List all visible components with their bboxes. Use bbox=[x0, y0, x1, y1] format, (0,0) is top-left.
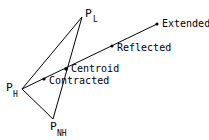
centroid-label: Centroid bbox=[71, 63, 119, 74]
reflected-label: Reflected bbox=[117, 42, 171, 53]
edge-pnh-ph bbox=[22, 89, 53, 119]
ph-label: P bbox=[6, 81, 13, 94]
reflected-marker bbox=[110, 44, 113, 47]
vertex-label-pl: P L bbox=[85, 7, 98, 24]
extended-label: Extended bbox=[162, 18, 209, 29]
extended-marker bbox=[155, 22, 158, 25]
vertex-label-pnh: P NH bbox=[50, 120, 67, 138]
vertex-label-ph: P H bbox=[6, 81, 18, 99]
contracted-marker bbox=[42, 77, 45, 80]
ph-subscript: H bbox=[13, 90, 18, 99]
pnh-subscript: NH bbox=[57, 129, 67, 138]
contracted-label: Contracted bbox=[49, 75, 109, 86]
pnh-label: P bbox=[50, 120, 57, 133]
simplex-diagram: P L P H P NH Contracted Centroid Reflect… bbox=[0, 0, 209, 140]
pl-label: P bbox=[85, 7, 92, 20]
centroid-marker bbox=[64, 67, 68, 71]
pl-subscript: L bbox=[93, 15, 98, 24]
